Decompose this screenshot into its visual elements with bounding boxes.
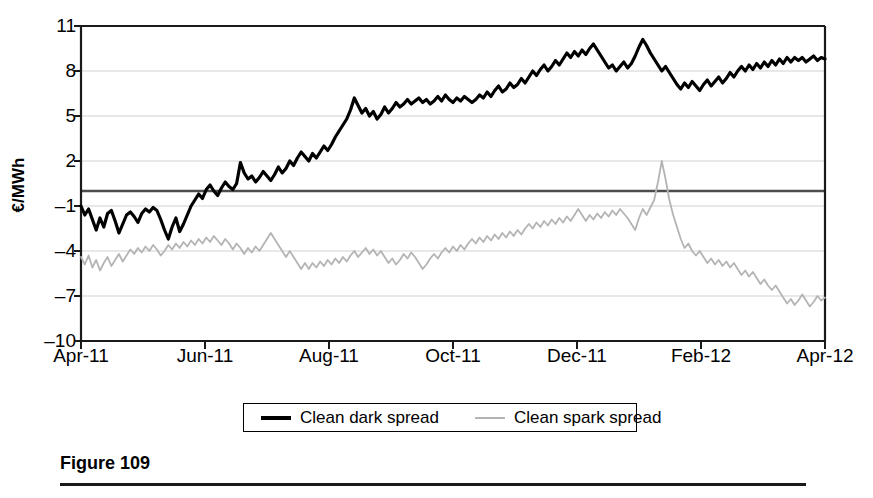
legend-label-dark: Clean dark spread (300, 409, 439, 427)
chart-legend: Clean dark spread Clean spark spread (243, 403, 637, 432)
series-line-clean-spark-spread (81, 161, 825, 307)
x-tick-label-apr-11: Apr-11 (53, 345, 109, 367)
figure-container: €/MWh 11852–1–4–7–10 Apr-11Jun-11Aug-11O… (0, 0, 873, 498)
x-tick-label-jun-11: Jun-11 (177, 345, 234, 367)
x-axis-tick-labels: Apr-11Jun-11Aug-11Oct-11Dec-11Feb-12Apr-… (0, 345, 873, 375)
legend-entry-clean-dark-spread: Clean dark spread (261, 409, 439, 427)
figure-caption: Figure 109 (0, 452, 873, 498)
caption-divider (60, 483, 806, 486)
legend-line-swatch-dark (261, 416, 291, 420)
x-tick-label-aug-11: Aug-11 (299, 345, 359, 367)
data-series (81, 40, 825, 307)
plot-frame (81, 26, 825, 341)
x-tick-label-dec-11: Dec-11 (547, 345, 607, 367)
x-tick-label-oct-11: Oct-11 (425, 345, 481, 367)
gridlines (81, 26, 825, 341)
x-tick-label-feb-12: Feb-12 (671, 345, 731, 367)
series-line-clean-dark-spread (81, 40, 825, 240)
legend-entry-clean-spark-spread: Clean spark spread (475, 409, 661, 427)
plot-svg (0, 0, 873, 390)
axis-ticks (74, 26, 825, 349)
figure-caption-title: Figure 109 (60, 452, 150, 474)
legend-label-spark: Clean spark spread (514, 409, 661, 427)
x-tick-label-apr-12: Apr-12 (796, 345, 853, 367)
chart-area: €/MWh 11852–1–4–7–10 Apr-11Jun-11Aug-11O… (0, 0, 873, 390)
legend-line-swatch-spark (475, 417, 505, 419)
